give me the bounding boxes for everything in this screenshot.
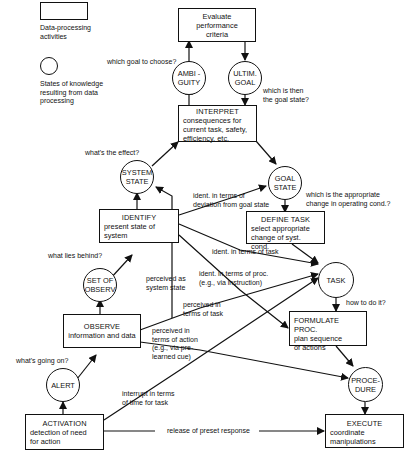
edge-label-line: ident. in terms of proc. (199, 270, 268, 279)
edge-label-perceived-system-state: perceived as system state (146, 275, 186, 292)
edge-label-line: ident. in terms of (193, 192, 269, 201)
edge-label-line: learned cue) (152, 353, 198, 362)
define-task-box[interactable]: DEFINE TASK select appropriate change of… (246, 211, 325, 244)
question-how-to-do: how to do it? (346, 299, 386, 308)
edge-label-perceived-task: perceived in terms of task (183, 301, 223, 318)
ambiguity-line: AMBI - (178, 69, 201, 78)
question-line: which is the appropriate (306, 191, 390, 200)
edge-label-line: (e.g., via pre- (152, 344, 198, 353)
procedure-line: PROCE- (351, 376, 380, 385)
evaluate-line: Evaluate (183, 12, 251, 21)
system-state-line: SYSTEM (122, 168, 152, 177)
evaluate-line: criteria (183, 30, 251, 39)
activation-line: for action (30, 437, 99, 446)
edge-label-line: deviation from goal state (193, 201, 269, 210)
edge-label-line: interrupt in terms (122, 390, 175, 399)
system-state-line: STATE (122, 177, 152, 186)
ultimate-goal-state[interactable]: ULTIM.GOAL (228, 61, 262, 95)
goal-state-line: GOAL (274, 174, 297, 183)
legend-state-label: States of knowledge resulting from data … (40, 80, 103, 106)
execute-title: EXECUTE (330, 419, 399, 428)
set-of-observations-state[interactable]: SET OFOBSERV (83, 268, 117, 302)
edge-label-line: perceived in (152, 327, 198, 336)
legend-activity-line: Data-processing (40, 24, 91, 33)
interpret-line: current task, safety, (183, 125, 252, 134)
legend-state-line: resulting from data (40, 89, 103, 98)
interpret-line: efficiency, etc. (183, 134, 252, 143)
edge-label-line: (e.g., via instruction) (199, 279, 268, 288)
question-appropriate-change: which is the appropriate change in opera… (306, 191, 390, 208)
task-state[interactable]: TASK (318, 262, 354, 298)
edge-label-ident-proc: ident. in terms of proc. (e.g., via inst… (199, 270, 268, 287)
edge-label-line: perceived as (146, 275, 186, 284)
question-whats-going-on: what's going on? (16, 357, 68, 366)
evaluate-line: performance (183, 21, 251, 30)
define-task-line: select appropriate (251, 224, 320, 233)
question-line: the goal state? (263, 96, 309, 105)
legend-activity-label: Data-processing activities (40, 24, 91, 41)
identify-box[interactable]: IDENTIFY present state of system (99, 209, 179, 243)
set-of-observ-line: OBSERV (85, 285, 116, 294)
legend-state-line: States of knowledge (40, 80, 103, 89)
goal-state-line: STATE (274, 183, 297, 192)
identify-line: system (104, 231, 174, 240)
edge-label-ident-deviation: ident. in terms of deviation from goal s… (193, 192, 269, 209)
system-state[interactable]: SYSTEMSTATE (120, 160, 154, 194)
edge-label-ident-task: ident. in terms of task (212, 248, 279, 257)
formulate-line: plan sequence (294, 334, 362, 343)
activation-title: ACTIVATION (30, 419, 99, 428)
edge-label-release: release of preset response (167, 427, 250, 436)
procedure-line: DURE (351, 385, 380, 394)
observe-box[interactable]: OBSERVE information and data (63, 314, 141, 348)
legend-activity-line: activities (40, 33, 91, 42)
question-line: which is then (263, 87, 309, 96)
formulate-proc-box[interactable]: FORMULATE PROC. plan sequence of actions (289, 311, 367, 346)
question-what-lies-behind: what lies behind? (48, 252, 102, 261)
legend-state-line: processing (40, 97, 103, 106)
execute-box[interactable]: EXECUTE coordinate manipulations (325, 414, 404, 448)
task-line: TASK (327, 276, 346, 285)
interpret-line: consequences for (183, 116, 252, 125)
edge-label-line: perceived in (183, 301, 223, 310)
ambiguity-state[interactable]: AMBI -GUITY (172, 61, 206, 95)
edge-label-perceived-action: perceived in terms of action (e.g., via … (152, 327, 198, 361)
edge-label-line: of time for task (122, 399, 175, 408)
question-whats-effect: what's the effect? (85, 149, 139, 158)
ultimate-goal-line: GOAL (233, 78, 257, 87)
formulate-line: of actions (294, 343, 362, 352)
question-which-goal: which goal to choose? (107, 58, 176, 67)
question-which-goal-state: which is then the goal state? (263, 87, 309, 104)
interpret-box[interactable]: INTERPRET consequences for current task,… (178, 105, 257, 142)
legend-state-circle (40, 57, 58, 75)
question-line: change in operating cond.? (306, 200, 390, 209)
define-task-title: DEFINE TASK (251, 215, 320, 224)
edge-label-interrupt: interrupt in terms of time for task (122, 390, 175, 407)
activation-line: detection of need (30, 428, 99, 437)
alert-state[interactable]: ALERT (46, 368, 80, 402)
ambiguity-line: GUITY (178, 78, 201, 87)
observe-title: OBSERVE (68, 322, 136, 331)
execute-line: coordinate (330, 428, 399, 437)
procedure-state[interactable]: PROCE-DURE (348, 367, 383, 402)
identify-line: present state of (104, 222, 174, 231)
edge-label-line: system state (146, 284, 186, 293)
legend-activity-box (40, 2, 88, 20)
execute-line: manipulations (330, 437, 399, 446)
edge-label-line: terms of task (183, 310, 223, 319)
interpret-title: INTERPRET (183, 107, 252, 116)
goal-state[interactable]: GOALSTATE (268, 166, 302, 200)
edge-label-line: terms of action (152, 336, 198, 345)
evaluate-box[interactable]: Evaluate performance criteria (178, 8, 256, 42)
ultimate-goal-line: ULTIM. (233, 69, 257, 78)
observe-line: information and data (68, 331, 136, 340)
formulate-title: FORMULATE PROC. (294, 316, 362, 334)
identify-title: IDENTIFY (104, 213, 174, 222)
activation-box[interactable]: ACTIVATION detection of need for action (25, 414, 104, 450)
set-of-observ-line: SET OF (85, 276, 116, 285)
alert-line: ALERT (51, 381, 75, 390)
